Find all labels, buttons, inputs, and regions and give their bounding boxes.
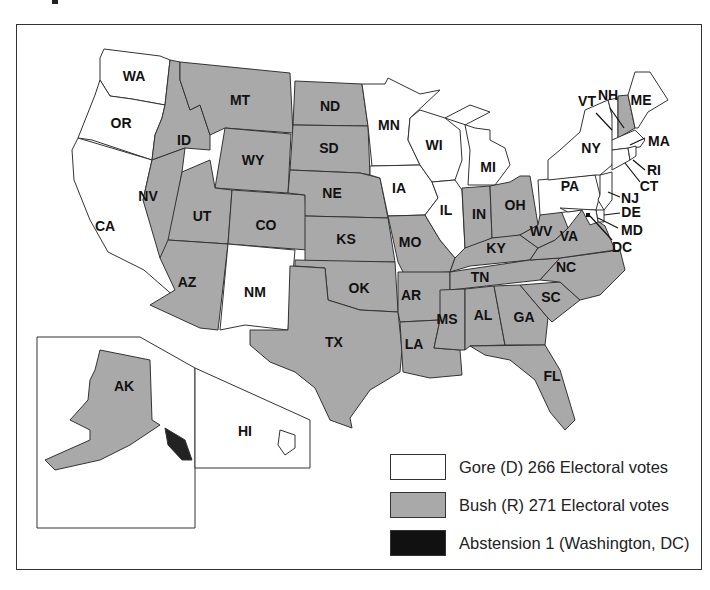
label-SD: SD (319, 140, 338, 156)
label-ME: ME (631, 92, 652, 108)
label-KS: KS (336, 231, 355, 247)
label-CT: CT (640, 178, 659, 194)
label-NM: NM (244, 284, 266, 300)
hawaii-inset-frame (195, 368, 310, 468)
bush-swatch (390, 492, 446, 518)
label-GA: GA (514, 309, 535, 325)
label-CA: CA (95, 218, 115, 234)
label-TX: TX (325, 334, 344, 350)
legend-label-abstention: Abstension 1 (Washington, DC) (459, 534, 690, 553)
label-NY: NY (581, 140, 601, 156)
label-NC: NC (556, 259, 576, 275)
label-PA: PA (561, 178, 579, 194)
label-WA: WA (123, 68, 146, 84)
label-CO: CO (256, 217, 277, 233)
label-HI: HI (238, 423, 252, 439)
leader-DE (604, 213, 620, 215)
label-IA: IA (392, 180, 406, 196)
label-WV: WV (530, 223, 553, 239)
label-TN: TN (471, 269, 490, 285)
label-DC: DC (612, 239, 632, 255)
legend-item-bush: Bush (R) 271 Electoral votes (390, 486, 690, 524)
gore-swatch (390, 454, 446, 480)
legend-label-gore: Gore (D) 266 Electoral votes (459, 458, 668, 477)
legend-item-gore: Gore (D) 266 Electoral votes (390, 448, 690, 486)
label-KY: KY (486, 240, 506, 256)
legend: Gore (D) 266 Electoral votes Bush (R) 27… (390, 448, 690, 562)
label-MT: MT (230, 92, 251, 108)
label-OH: OH (505, 197, 526, 213)
label-MA: MA (648, 133, 670, 149)
label-LA: LA (405, 336, 424, 352)
label-MD: MD (621, 222, 643, 238)
label-RI: RI (647, 162, 661, 178)
label-WY: WY (242, 152, 265, 168)
label-MN: MN (378, 117, 400, 133)
label-ID: ID (177, 132, 191, 148)
label-VA: VA (560, 228, 578, 244)
label-NV: NV (138, 188, 158, 204)
label-AK: AK (114, 378, 134, 394)
label-DE: DE (621, 204, 640, 220)
legend-item-abstention: Abstension 1 (Washington, DC) (390, 524, 690, 562)
label-AR: AR (401, 287, 421, 303)
legend-label-bush: Bush (R) 271 Electoral votes (459, 496, 669, 515)
label-MS: MS (437, 311, 458, 327)
label-UT: UT (193, 208, 212, 224)
state-DC (586, 213, 590, 217)
label-SC: SC (541, 289, 560, 305)
abstention-swatch (390, 530, 446, 556)
label-NH: NH (598, 87, 618, 103)
label-AL: AL (474, 307, 493, 323)
label-NE: NE (322, 185, 341, 201)
leader-RI (633, 160, 645, 170)
label-MI: MI (480, 159, 496, 175)
label-WI: WI (425, 137, 442, 153)
leader-CT (625, 163, 640, 182)
state-NJ (598, 172, 612, 210)
label-FL: FL (543, 368, 561, 384)
label-AZ: AZ (178, 274, 197, 290)
label-IL: IL (440, 202, 453, 218)
state-FL (470, 345, 575, 430)
label-ND: ND (320, 98, 340, 114)
label-IN: IN (472, 206, 486, 222)
label-MO: MO (399, 234, 422, 250)
label-OK: OK (349, 280, 370, 296)
state-RI (628, 146, 636, 160)
label-VT: VT (578, 93, 596, 109)
label-OR: OR (111, 115, 132, 131)
